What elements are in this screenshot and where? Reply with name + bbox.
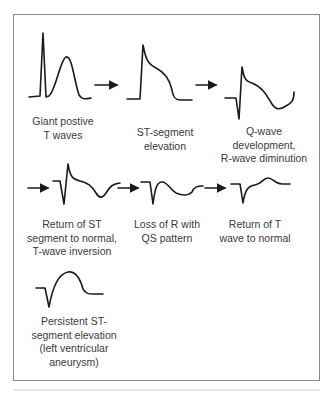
waveform-persistent-st: [36, 272, 103, 307]
waveform-qs-pattern: [141, 182, 203, 204]
waveform-q-wave: [225, 67, 294, 119]
label-giant-positive-t: Giant postive T waves: [32, 115, 93, 142]
label-persistent-st: Persistent ST- segment elevation (left v…: [31, 315, 116, 369]
label-t-normal: Return of T wave to normal: [219, 218, 290, 245]
waveform-t-normal: [231, 178, 290, 203]
label-qs-pattern: Loss of R with QS pattern: [134, 218, 200, 245]
label-t-inversion: Return of ST segment to normal, T-wave i…: [27, 218, 117, 259]
waveform-giant-positive-t: [29, 33, 91, 99]
label-q-wave: Q-wave development, R-wave diminution: [221, 125, 307, 166]
label-st-elevation: ST-segment elevation: [137, 126, 194, 153]
waveform-t-inversion: [53, 164, 120, 204]
waveform-st-elevation: [127, 45, 192, 100]
